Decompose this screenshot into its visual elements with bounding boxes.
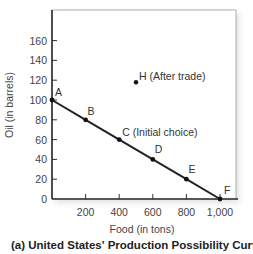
y-axis-title: Oil (in barrels) xyxy=(3,72,15,138)
point-label: E xyxy=(188,163,195,175)
x-axis-title: Food (in tons) xyxy=(110,223,175,235)
data-point xyxy=(218,197,223,202)
data-point xyxy=(184,177,189,182)
annotation-point xyxy=(134,80,138,84)
point-label: D xyxy=(155,143,163,155)
y-tick-label: 140 xyxy=(29,54,47,66)
x-tick-label: 400 xyxy=(110,206,128,218)
data-point xyxy=(150,157,155,162)
x-tick-label: 600 xyxy=(144,206,162,218)
y-tick-label: 60 xyxy=(35,134,47,146)
point-label: A xyxy=(55,86,62,98)
y-tick-label: 80 xyxy=(35,114,47,126)
annotation-label: H (After trade) xyxy=(139,70,206,82)
data-point xyxy=(83,117,88,122)
y-tick-label: 120 xyxy=(29,74,47,86)
y-tick-label: 40 xyxy=(35,153,47,165)
ppc-chart: 020406080100120140160 2004006008001,000 … xyxy=(0,0,253,254)
data-point xyxy=(117,137,122,142)
y-tick-label: 20 xyxy=(35,173,47,185)
y-tick-label: 100 xyxy=(29,94,47,106)
y-tick-label: 0 xyxy=(41,193,47,205)
chart-caption: (a) United States' Production Possibilit… xyxy=(11,239,253,251)
x-tick-label: 1,000 xyxy=(207,206,233,218)
y-axis-ticks: 020406080100120140160 xyxy=(29,35,57,205)
point-label: F xyxy=(224,184,230,196)
point-label: C (Initial choice) xyxy=(122,126,197,138)
x-tick-label: 200 xyxy=(77,206,95,218)
x-tick-label: 800 xyxy=(178,206,196,218)
plot-area xyxy=(52,10,236,199)
data-point xyxy=(50,98,55,103)
point-label: B xyxy=(88,105,95,117)
y-tick-label: 160 xyxy=(29,35,47,47)
